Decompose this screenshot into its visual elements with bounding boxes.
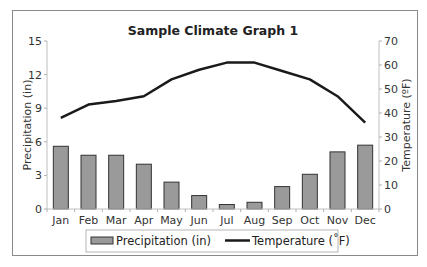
x-tick-label: Aug [244, 214, 265, 227]
x-tick-label: Nov [327, 214, 349, 227]
precipitation-bar [302, 174, 317, 209]
left-tick-label: 9 [35, 102, 42, 115]
right-tick-label: 20 [384, 155, 398, 168]
right-axis-label: Temperature (ºF) [400, 78, 413, 172]
climate-chart: Sample Climate Graph 1 03691215 01020304… [0, 0, 427, 267]
x-tick-label: Feb [79, 214, 98, 227]
precipitation-bar [109, 155, 124, 209]
right-tick-label: 0 [384, 203, 391, 216]
x-tick-label: May [160, 214, 183, 227]
precipitation-legend-swatch [91, 237, 113, 244]
legend-precipitation-label: Precipitation (in) [116, 234, 211, 248]
legend-temperature-label: Temperature (˚F) [251, 233, 350, 248]
right-tick-label: 60 [384, 59, 398, 72]
precipitation-bar [330, 152, 345, 209]
x-tick-label: Jan [51, 214, 69, 227]
right-tick-label: 70 [384, 35, 398, 48]
precipitation-bar [275, 187, 290, 209]
x-tick-label: Oct [300, 214, 320, 227]
right-tick-label: 30 [384, 131, 398, 144]
right-y-axis: 010203040506070 [379, 35, 398, 216]
left-tick-label: 6 [35, 136, 42, 149]
temperature-polyline [61, 63, 365, 123]
x-tick-label: Apr [134, 214, 154, 227]
right-tick-label: 50 [384, 83, 398, 96]
x-tick-label: Sep [272, 214, 293, 227]
x-tick-label: Jul [219, 214, 233, 227]
precipitation-bars [53, 145, 372, 209]
precipitation-bar [136, 164, 151, 209]
left-axis-label: Precipitation (in) [21, 80, 34, 171]
chart-title: Sample Climate Graph 1 [128, 23, 298, 38]
x-tick-label: Jun [190, 214, 208, 227]
left-tick-label: 3 [35, 169, 42, 182]
precipitation-bar [358, 145, 373, 209]
left-tick-label: 15 [28, 35, 42, 48]
precipitation-bar [219, 205, 234, 209]
x-axis: JanFebMarAprMayJunJulAugSepOctNovDec [47, 209, 379, 227]
x-tick-label: Dec [355, 214, 376, 227]
precipitation-bar [164, 182, 179, 209]
left-tick-label: 0 [35, 203, 42, 216]
precipitation-bar [192, 196, 207, 209]
precipitation-bar [247, 202, 262, 209]
legend: Precipitation (in) Temperature (˚F) [86, 230, 350, 252]
x-tick-label: Mar [106, 214, 127, 227]
precipitation-bar [53, 146, 68, 209]
precipitation-bar [81, 155, 96, 209]
right-tick-label: 10 [384, 179, 398, 192]
temperature-line [61, 63, 365, 123]
right-tick-label: 40 [384, 107, 398, 120]
